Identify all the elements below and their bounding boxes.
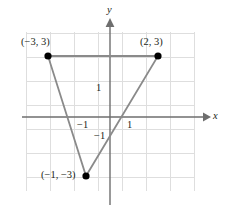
vertex-point-top-right xyxy=(154,52,161,59)
y-axis-arrowhead xyxy=(106,18,115,27)
coordinate-plane-figure: (−3, 3) (2, 3) (−1, −3) 1 −1 −1 1 x y xyxy=(0,0,231,216)
y-axis-tick-label-positive-one: 1 xyxy=(96,83,101,94)
vertex-label-bottom: (−1, −3) xyxy=(41,170,76,181)
x-axis-tick-label-positive-one: 1 xyxy=(127,120,132,131)
triangle-shape xyxy=(48,56,158,176)
x-axis-tick-label-negative-one: −1 xyxy=(77,120,88,131)
y-axis-label: y xyxy=(107,5,112,16)
x-axis-label: x xyxy=(213,111,218,122)
graph-canvas xyxy=(0,0,231,216)
vertex-label-top-left: (−3, 3) xyxy=(21,37,50,48)
vertex-label-top-right: (2, 3) xyxy=(140,37,163,48)
x-axis-arrowhead xyxy=(203,113,211,122)
vertex-point-bottom xyxy=(82,172,89,179)
vertex-point-top-left xyxy=(44,52,51,59)
y-axis-tick-label-negative-one: −1 xyxy=(94,131,105,142)
